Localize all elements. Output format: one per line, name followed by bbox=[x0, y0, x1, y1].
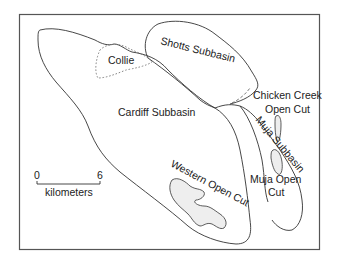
chicken-creek-label-2: Open Cut bbox=[265, 103, 310, 115]
shotts-subbasin-label: Shotts Subbasin bbox=[160, 34, 237, 64]
scale-bar-line bbox=[37, 181, 100, 184]
cardiff-subbasin-label: Cardiff Subbasin bbox=[118, 106, 196, 118]
scale-start-label: 0 bbox=[34, 169, 40, 181]
scale-end-label: 6 bbox=[97, 169, 103, 181]
chicken-creek-label-1: Chicken Creek bbox=[253, 89, 323, 101]
muja-open-cut-label-1: Muja Open bbox=[250, 173, 302, 185]
cardiff-subbasin-outline bbox=[38, 29, 251, 244]
muja-open-cut-label-2: Cut bbox=[268, 186, 284, 198]
coal-basin-map: Collie Shotts Subbasin Cardiff Subbasin … bbox=[0, 0, 338, 277]
scale-unit-label: kilometers bbox=[45, 186, 93, 198]
scale-bar: 0 6 kilometers bbox=[34, 169, 103, 198]
collie-label: Collie bbox=[108, 54, 134, 66]
